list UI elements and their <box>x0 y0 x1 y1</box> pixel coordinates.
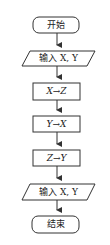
start-node-label: 开始 <box>33 21 79 30</box>
step2-node-label: Y→X <box>33 120 80 129</box>
step3-node-label: Z→Y <box>33 154 80 163</box>
output1-node-label: 输入 X, Y <box>22 188 95 197</box>
step1-node-label: X→Z <box>33 87 80 96</box>
input1-node-label: 输入 X, Y <box>22 54 95 63</box>
end-node-label: 结束 <box>32 220 79 229</box>
